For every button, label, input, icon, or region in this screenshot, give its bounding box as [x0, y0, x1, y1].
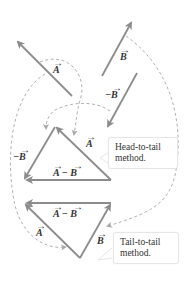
svg-text:→: → — [73, 160, 83, 171]
dashed-path-b-to-tail-tail — [108, 36, 178, 226]
svg-text:→: → — [53, 160, 63, 171]
vector-neg-b-standalone: −B → — [105, 73, 137, 126]
svg-text:→: → — [112, 82, 122, 93]
svg-text:→: → — [20, 144, 30, 155]
head-to-tail-line2: method. — [115, 153, 171, 164]
tail-to-tail-line2: method. — [120, 248, 172, 259]
svg-text:→: → — [120, 44, 130, 55]
tail-to-tail-callout: Tail-to-tail method. — [113, 232, 179, 264]
svg-text:→: → — [53, 201, 63, 212]
head-to-tail-line1: Head-to-tail — [115, 142, 171, 153]
svg-text:→: → — [36, 220, 46, 231]
tail-to-tail-triangle: A − B → → A → B → — [26, 201, 111, 258]
head-to-tail-triangle: −B → A → A − B → → — [13, 127, 111, 180]
tail-to-tail-line1: Tail-to-tail — [120, 237, 172, 248]
svg-text:→: → — [97, 228, 107, 239]
svg-text:→: → — [86, 131, 96, 142]
svg-text:→: → — [73, 201, 83, 212]
vector-a-standalone: A → — [18, 42, 72, 96]
vector-b-standalone: B → — [102, 23, 131, 76]
vector-arrow-accent: → — [53, 57, 63, 68]
head-to-tail-callout: Head-to-tail method. — [108, 137, 178, 169]
